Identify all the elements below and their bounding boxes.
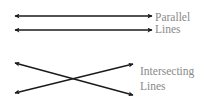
parallel-label: Parallel Lines	[155, 11, 190, 35]
intersecting-lines-group	[15, 63, 133, 95]
parallel-label-line1: Parallel	[155, 11, 190, 23]
parallel-lines-group	[15, 16, 152, 30]
parallel-label-line2: Lines	[155, 23, 190, 35]
intersecting-label: Intersecting Lines	[140, 65, 194, 92]
intersecting-label-line2: Lines	[140, 80, 194, 92]
intersecting-label-line1: Intersecting	[140, 65, 194, 77]
